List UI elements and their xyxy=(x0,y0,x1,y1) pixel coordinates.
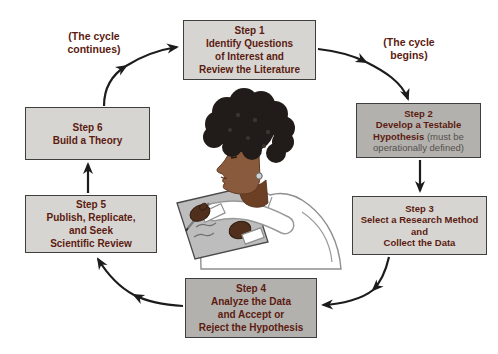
researcher-illustration xyxy=(177,88,341,269)
step-4-text: Step 4 Analyze the Data and Accept or Re… xyxy=(199,282,303,334)
step-6-box: Step 6 Build a Theory xyxy=(25,107,150,160)
hair xyxy=(203,88,295,163)
cycle-continues-label: (The cycle continues) xyxy=(50,30,138,56)
scientific-method-diagram: Step 1 Identify Questions of Interest an… xyxy=(0,0,498,354)
earring xyxy=(256,173,262,179)
step-4-box: Step 4 Analyze the Data and Accept or Re… xyxy=(185,278,317,338)
step-3-box: Step 3 Select a Research Method and Coll… xyxy=(352,196,487,255)
step-5-box: Step 5 Publish, Replicate, and Seek Scie… xyxy=(25,195,157,253)
step-3-text: Step 3 Select a Research Method and Coll… xyxy=(361,203,479,249)
step-1-text: Step 1 Identify Questions of Interest an… xyxy=(199,24,300,76)
step-1-box: Step 1 Identify Questions of Interest an… xyxy=(183,20,316,80)
cycle-begins-label: (The cycle begins) xyxy=(366,36,452,62)
step-2-box: Step 2 Develop a Testable Hypothesis (mu… xyxy=(356,103,481,158)
step-6-text: Step 6 Build a Theory xyxy=(53,121,122,147)
step-5-text: Step 5 Publish, Replicate, and Seek Scie… xyxy=(47,198,136,250)
arrow-step4-to-step5 xyxy=(98,259,183,306)
step-2-text: Step 2 Develop a Testable Hypothesis (mu… xyxy=(373,108,464,154)
